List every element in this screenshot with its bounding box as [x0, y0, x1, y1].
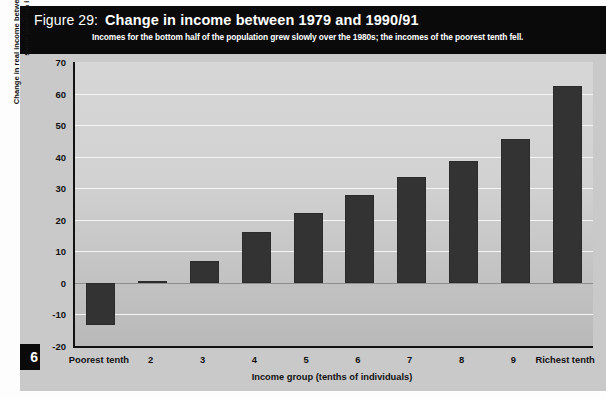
y-axis-label: Change in real income between 1979 and 1…: [12, 0, 31, 112]
y-tick-label: -10: [52, 309, 66, 320]
chart-body: Change in real income between 1979 and 1…: [20, 54, 606, 391]
x-tick-label: 4: [252, 354, 257, 365]
x-tick-label: 5: [303, 354, 308, 365]
figure-number: Figure 29:: [34, 12, 98, 28]
figure-header: Figure 29: Change in income between 1979…: [20, 6, 606, 54]
y-tick-label: -20: [52, 341, 66, 352]
y-tick-label: 30: [55, 183, 66, 194]
bar: [138, 281, 167, 283]
x-axis-label: Income group (tenths of individuals): [73, 372, 591, 382]
figure-title: Change in income between 1979 and 1990/9…: [105, 12, 419, 28]
page-number-marker: 6: [20, 344, 40, 370]
bar: [345, 195, 374, 283]
bar: [86, 283, 115, 326]
bar: [449, 161, 478, 282]
title-line: Figure 29: Change in income between 1979…: [34, 12, 596, 28]
x-tick-label: 2: [148, 354, 153, 365]
bar: [294, 213, 323, 282]
x-axis-ticks: Poorest tenth23456789Richest tenth: [73, 354, 591, 370]
x-tick-label: 7: [407, 354, 412, 365]
gridline: [75, 94, 593, 95]
gridline: [75, 314, 593, 315]
figure-container: Figure 29: Change in income between 1979…: [20, 6, 606, 391]
bar: [190, 261, 219, 283]
x-tick-label: Poorest tenth: [69, 354, 129, 365]
bar: [397, 177, 426, 283]
x-tick-label: 8: [459, 354, 464, 365]
plot-area: [73, 62, 593, 348]
y-tick-label: 70: [55, 57, 66, 68]
bar: [501, 139, 530, 283]
y-tick-label: 60: [55, 88, 66, 99]
y-axis-ticks: 706050403020100-10-20: [40, 54, 70, 346]
y-tick-label: 20: [55, 214, 66, 225]
bar: [553, 86, 582, 283]
y-tick-label: 50: [55, 120, 66, 131]
y-tick-label: 10: [55, 246, 66, 257]
figure-subtitle: Incomes for the bottom half of the popul…: [92, 32, 596, 42]
gridline: [75, 346, 593, 347]
x-tick-label: 3: [200, 354, 205, 365]
x-tick-label: Richest tenth: [535, 354, 594, 365]
y-tick-label: 40: [55, 151, 66, 162]
x-tick-label: 6: [355, 354, 360, 365]
bar: [242, 232, 271, 282]
y-tick-label: 0: [61, 277, 66, 288]
x-tick-label: 9: [511, 354, 516, 365]
gridline: [75, 125, 593, 126]
